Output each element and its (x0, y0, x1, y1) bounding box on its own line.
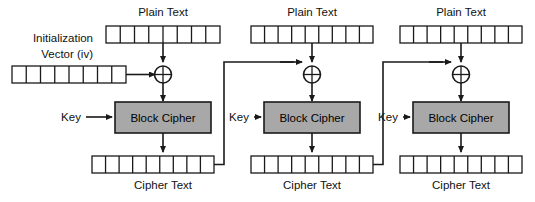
plain-text-bar-1 (106, 26, 220, 43)
block-cipher-box-2: Block Cipher (264, 102, 360, 133)
plain-text-bar-2 (251, 26, 373, 43)
plain-text-bar-3 (400, 26, 522, 43)
cipher-text-bar-3 (400, 156, 522, 173)
xor-gate-2 (304, 66, 321, 83)
cipher-text-label-1: Cipher Text (134, 179, 193, 191)
iv-label-line1: Initialization (33, 32, 93, 44)
xor-gate-1 (155, 66, 172, 83)
block-cipher-label-3: Block Cipher (428, 112, 493, 124)
block-3: Plain Text (378, 6, 522, 191)
cipher-text-label-3: Cipher Text (432, 179, 491, 191)
cbc-diagram-canvas: Plain Text Initialization Vector (iv) (0, 0, 535, 202)
iv-bar (12, 66, 126, 83)
plain-text-label-2: Plain Text (287, 6, 337, 18)
block-cipher-label-1: Block Cipher (130, 112, 195, 124)
cipher-text-bar-1 (92, 156, 214, 173)
xor-gate-3 (453, 66, 470, 83)
cbc-encryption-diagram: Plain Text Initialization Vector (iv) (0, 0, 535, 202)
key-label-1: Key (61, 111, 81, 123)
block-cipher-box-3: Block Cipher (413, 102, 509, 133)
plain-text-label-3: Plain Text (436, 6, 486, 18)
iv-label-line2: Vector (iv) (41, 48, 93, 60)
plain-text-label-1: Plain Text (138, 6, 188, 18)
cipher-text-label-2: Cipher Text (283, 179, 342, 191)
block-cipher-box-1: Block Cipher (115, 102, 211, 133)
cipher-text-bar-2 (251, 156, 373, 173)
key-label-2: Key (229, 111, 249, 123)
block-cipher-label-2: Block Cipher (279, 112, 344, 124)
key-label-3: Key (378, 111, 398, 123)
